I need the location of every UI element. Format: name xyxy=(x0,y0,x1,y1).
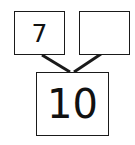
part-box-left: 7 xyxy=(14,11,65,55)
part-box-right-empty[interactable] xyxy=(79,11,130,55)
connector-right xyxy=(74,54,101,72)
connector-left xyxy=(42,55,70,72)
part-left-value: 7 xyxy=(32,19,48,48)
whole-value: 10 xyxy=(47,81,98,127)
whole-box: 10 xyxy=(36,72,109,136)
